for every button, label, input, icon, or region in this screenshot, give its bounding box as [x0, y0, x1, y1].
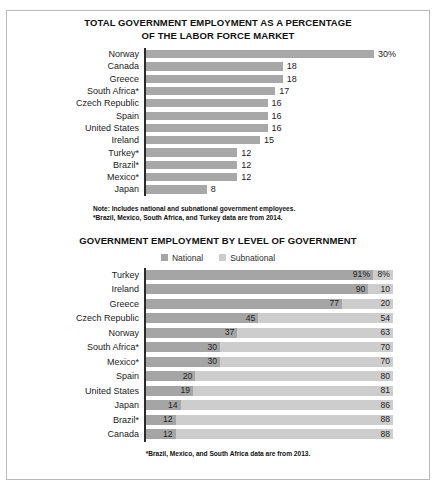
- chart2-stacked-bar: 3763: [146, 328, 393, 338]
- chart2-stacked-bar: 7720: [146, 299, 393, 309]
- chart2-segment-national: 12: [146, 415, 176, 425]
- chart2-segment-subnational: 63: [237, 328, 393, 338]
- chart2-category-label: South Africa*: [7, 342, 144, 352]
- chart2-subnational-value: 70: [380, 343, 393, 352]
- chart1-value-label: 15: [264, 135, 274, 145]
- chart1-footnotes: Note: Includes national and subnational …: [7, 204, 429, 222]
- chart2-plot-area: Turkey91%8%Ireland9010Greece7720Czech Re…: [7, 268, 429, 442]
- chart2-subnational-value: 88: [380, 415, 393, 424]
- figure-frame: TOTAL GOVERNMENT EMPLOYMENT AS A PERCENT…: [6, 10, 430, 480]
- chart2-bar-track: 1288: [144, 427, 429, 442]
- chart2-bar-row: Canada1288: [7, 427, 429, 442]
- chart1-bar: [146, 136, 260, 144]
- chart2-note: *Brazil, Mexico, and South Africa data a…: [27, 449, 429, 458]
- chart1-value-label: 12: [241, 172, 251, 182]
- chart2-category-label: Canada: [7, 429, 144, 439]
- chart2-legend-label: National: [172, 253, 203, 263]
- chart2-bar-row: Czech Republic4554: [7, 311, 429, 326]
- chart1-bar-track: 12: [144, 171, 429, 183]
- chart2-segment-subnational: 80: [195, 371, 393, 381]
- chart2-segment-subnational: 70: [220, 342, 393, 352]
- chart1-bar-track: 15: [144, 134, 429, 146]
- chart1-bar: [146, 161, 237, 169]
- chart2-segment-subnational: 81: [193, 386, 393, 396]
- chart2-bar-row: Turkey91%8%: [7, 268, 429, 283]
- chart1-note: Note: Includes national and subnational …: [93, 204, 429, 213]
- chart2-subnational-value: 70: [380, 357, 393, 366]
- chart1-bar: [146, 112, 268, 120]
- chart2-segment-subnational: 8%: [373, 270, 393, 280]
- chart1-bar: [146, 173, 237, 181]
- chart2-stacked-bar: 2080: [146, 371, 393, 381]
- chart2-national-value: 77: [330, 299, 343, 308]
- chart2-legend: NationalSubnational: [7, 253, 429, 263]
- chart1-value-label: 12: [241, 148, 251, 158]
- chart1-bar: [146, 148, 237, 156]
- chart1-bar-row: Japan8: [7, 183, 429, 195]
- chart1-bar: [146, 62, 283, 70]
- chart2-segment-national: 91%: [146, 270, 373, 280]
- chart1-value-label: 18: [287, 74, 297, 84]
- chart1-category-label: Turkey*: [7, 148, 144, 158]
- chart2-segment-national: 20: [146, 371, 195, 381]
- chart2-segment-national: 77: [146, 299, 342, 309]
- chart2-bar-track: 1288: [144, 413, 429, 428]
- chart1-bar: [146, 124, 268, 132]
- chart2-subnational-value: 80: [380, 372, 393, 381]
- chart1-category-label: Japan: [7, 184, 144, 194]
- chart1-category-label: Czech Republic: [7, 98, 144, 108]
- chart2-bar-track: 9010: [144, 282, 429, 297]
- chart2-footnotes: *Brazil, Mexico, and South Africa data a…: [7, 449, 429, 458]
- chart2-segment-subnational: 88: [176, 415, 393, 425]
- chart2-segment-national: 12: [146, 429, 176, 439]
- chart1-category-label: Canada: [7, 61, 144, 71]
- chart1-value-label: 30%: [378, 49, 396, 59]
- chart2-segment-national: 45: [146, 313, 258, 323]
- chart2-stacked-bar: 3070: [146, 357, 393, 367]
- chart2-subnational-value: 8%: [378, 270, 393, 279]
- chart1-bar-track: 16: [144, 97, 429, 109]
- chart2-bar-track: 3070: [144, 340, 429, 355]
- chart1-value-label: 16: [272, 111, 282, 121]
- chart2-bar-row: South Africa*3070: [7, 340, 429, 355]
- chart1-bar-row: Greece18: [7, 73, 429, 85]
- chart2-segment-national: 14: [146, 400, 181, 410]
- chart2-segment-national: 30: [146, 342, 220, 352]
- chart2-subnational-value: 88: [380, 430, 393, 439]
- chart2-segment-subnational: 86: [181, 400, 393, 410]
- chart1-value-label: 17: [279, 86, 289, 96]
- chart2-national-value: 90: [356, 285, 369, 294]
- chart2-bar-track: 4554: [144, 311, 429, 326]
- chart1-bar: [146, 99, 268, 107]
- chart2-category-label: Mexico*: [7, 357, 144, 367]
- chart2-bar-track: 1981: [144, 384, 429, 399]
- chart2-national-value: 12: [163, 430, 176, 439]
- chart2-bar-row: Spain2080: [7, 369, 429, 384]
- chart1-category-label: South Africa*: [7, 86, 144, 96]
- chart1-category-label: Greece: [7, 74, 144, 84]
- chart2-legend-swatch: [219, 254, 226, 261]
- chart2-national-value: 19: [180, 386, 193, 395]
- chart1-bar-track: 12: [144, 146, 429, 158]
- chart2-category-label: Brazil*: [7, 415, 144, 425]
- chart1-bar: [146, 75, 283, 83]
- chart1-bar-track: 12: [144, 159, 429, 171]
- chart2-segment-subnational: 20: [342, 299, 393, 309]
- chart2-category-label: Japan: [7, 400, 144, 410]
- chart2-segment-subnational: 88: [176, 429, 393, 439]
- chart2-bar-row: Norway3763: [7, 326, 429, 341]
- chart2-national-value: 45: [246, 314, 259, 323]
- chart1-bar-row: Mexico*12: [7, 171, 429, 183]
- chart2-bar-track: 2080: [144, 369, 429, 384]
- chart2-national-value: 30: [208, 357, 221, 366]
- chart2-bar-track: 7720: [144, 297, 429, 312]
- chart1-bar: [146, 50, 374, 58]
- chart2-bar-row: Japan1486: [7, 398, 429, 413]
- chart1-bar-row: United States16: [7, 122, 429, 134]
- chart2-category-label: United States: [7, 386, 144, 396]
- chart2-legend-swatch: [161, 254, 168, 261]
- chart1-bar-row: Spain16: [7, 109, 429, 121]
- chart2-subnational-value: 81: [380, 386, 393, 395]
- chart1-bar-track: 8: [144, 183, 429, 195]
- chart1-bar-track: 30%: [144, 48, 429, 60]
